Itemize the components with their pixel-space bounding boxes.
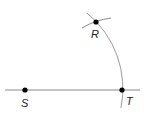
point-r (93, 19, 98, 24)
point-t (119, 87, 124, 92)
label-r: R (91, 28, 99, 40)
label-s: S (21, 97, 29, 109)
construction-diagram: S T R (0, 0, 144, 114)
point-s (22, 87, 27, 92)
label-t: T (126, 95, 134, 107)
